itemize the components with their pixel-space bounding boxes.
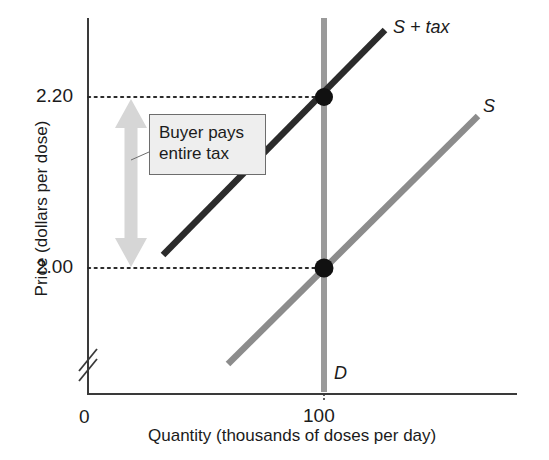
x-tick-label-100: 100 <box>303 406 335 425</box>
y-tick-label-200: 2.00 <box>36 257 73 276</box>
annotation-callout: Buyer pays entire tax <box>149 114 266 175</box>
tax-incidence-chart: Buyer pays entire tax Price (dollars per… <box>0 0 549 460</box>
equilibrium-marker-with-tax <box>315 88 333 106</box>
curve-label-supply-with-tax: S + tax <box>393 18 450 36</box>
axis-lines <box>88 18 517 395</box>
chart-canvas <box>0 0 549 460</box>
curve-label-supply: S <box>483 97 495 115</box>
y-axis-title: Price (dollars per dose) <box>33 84 50 334</box>
annotation-text: Buyer pays entire tax <box>159 122 256 165</box>
origin-label: 0 <box>79 407 90 426</box>
curve-label-demand: D <box>334 364 347 382</box>
tax-incidence-arrow-icon <box>115 99 147 267</box>
x-axis-title: Quantity (thousands of doses per day) <box>148 427 436 444</box>
y-tick-label-220: 2.20 <box>36 86 73 105</box>
equilibrium-marker-no-tax <box>315 259 334 278</box>
